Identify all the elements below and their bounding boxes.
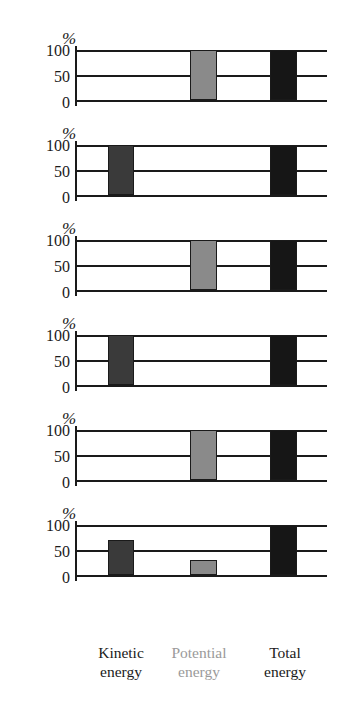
chart-panel-5: % 100 50 0 <box>0 410 350 505</box>
y-tick-0: 0 <box>62 570 70 586</box>
bar-total <box>270 525 297 575</box>
y-axis-ticks: 100 50 0 <box>0 525 70 577</box>
y-axis-ticks: 100 50 0 <box>0 430 70 482</box>
bar-potential <box>190 430 217 480</box>
x-label-kinetic-line2: energy <box>76 662 166 681</box>
gridline-0 <box>75 575 327 577</box>
y-tick-0: 0 <box>62 380 70 396</box>
bar-total <box>270 430 297 480</box>
y-tick-100: 100 <box>46 423 70 439</box>
plot-area <box>75 240 327 292</box>
plot-area <box>75 525 327 577</box>
y-tick-100: 100 <box>46 233 70 249</box>
bar-total <box>270 335 297 385</box>
bar-total <box>270 145 297 195</box>
bar-potential <box>190 240 217 290</box>
plot-area <box>75 145 327 197</box>
y-tick-50: 50 <box>54 164 70 180</box>
chart-panel-1: % 100 50 0 <box>0 30 350 125</box>
x-axis-labels: Kinetic energy Potential energy Total en… <box>75 643 335 703</box>
chart-panel-6: % 100 50 0 <box>0 505 350 600</box>
x-label-potential: Potential energy <box>154 643 244 682</box>
bar-kinetic <box>108 540 134 575</box>
y-tick-100: 100 <box>46 328 70 344</box>
chart-panel-2: % 100 50 0 <box>0 125 350 220</box>
gridline-0 <box>75 195 327 197</box>
x-label-kinetic-line1: Kinetic <box>76 643 166 662</box>
y-axis-ticks: 100 50 0 <box>0 240 70 292</box>
y-axis-ticks: 100 50 0 <box>0 145 70 197</box>
y-tick-50: 50 <box>54 354 70 370</box>
y-tick-100: 100 <box>46 518 70 534</box>
y-tick-50: 50 <box>54 259 70 275</box>
y-tick-50: 50 <box>54 69 70 85</box>
gridline-0 <box>75 290 327 292</box>
energy-bar-chart-figure: % 100 50 0 % 100 50 0 <box>0 0 350 711</box>
y-tick-0: 0 <box>62 190 70 206</box>
y-tick-100: 100 <box>46 138 70 154</box>
bar-total <box>270 50 297 100</box>
bar-kinetic <box>108 145 134 195</box>
y-tick-0: 0 <box>62 285 70 301</box>
chart-panel-4: % 100 50 0 <box>0 315 350 410</box>
bar-potential <box>190 50 217 100</box>
x-label-potential-line1: Potential <box>154 643 244 662</box>
gridline-0 <box>75 100 327 102</box>
chart-panel-3: % 100 50 0 <box>0 220 350 315</box>
y-tick-50: 50 <box>54 449 70 465</box>
x-label-total-line1: Total <box>240 643 330 662</box>
plot-area <box>75 430 327 482</box>
y-axis-ticks: 100 50 0 <box>0 50 70 102</box>
bar-kinetic <box>108 335 134 385</box>
y-tick-0: 0 <box>62 475 70 491</box>
y-tick-0: 0 <box>62 95 70 111</box>
y-tick-100: 100 <box>46 43 70 59</box>
x-label-total-line2: energy <box>240 662 330 681</box>
y-tick-50: 50 <box>54 544 70 560</box>
bar-potential <box>190 560 217 575</box>
gridline-0 <box>75 480 327 482</box>
y-axis-ticks: 100 50 0 <box>0 335 70 387</box>
plot-area <box>75 50 327 102</box>
x-label-potential-line2: energy <box>154 662 244 681</box>
gridline-0 <box>75 385 327 387</box>
bar-total <box>270 240 297 290</box>
plot-area <box>75 335 327 387</box>
x-label-total: Total energy <box>240 643 330 682</box>
x-label-kinetic: Kinetic energy <box>76 643 166 682</box>
